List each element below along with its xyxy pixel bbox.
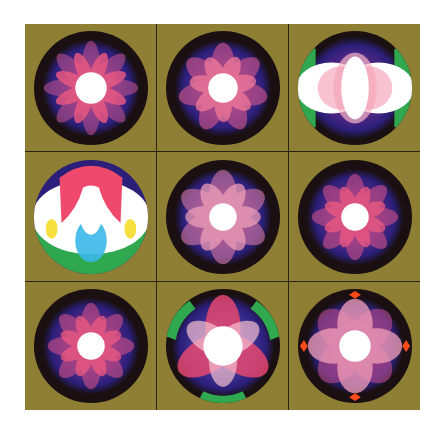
mandala-4-lobe-green-icon: [296, 29, 414, 147]
tile-9: [289, 282, 420, 410]
mandala-6-petal-icon: [164, 158, 282, 276]
tile-5: [157, 152, 289, 282]
mandala-8-petal-icon: [32, 29, 150, 147]
tile-1: [25, 24, 157, 152]
mandala-4-petal-diamond-icon: [296, 287, 414, 405]
mandala-multicolor-icon: [32, 158, 150, 276]
tile-3: [289, 24, 420, 152]
tile-8: [157, 282, 289, 410]
mandala-grid: [25, 24, 420, 410]
tile-7: [25, 282, 157, 410]
mandala-3-lobe-icon: [164, 287, 282, 405]
tile-4: [25, 152, 157, 282]
tile-6: [289, 152, 420, 282]
tile-2: [157, 24, 289, 152]
mandala-8-petal-icon: [296, 158, 414, 276]
mandala-7-petal-icon: [164, 29, 282, 147]
mandala-8-petal-icon: [32, 287, 150, 405]
